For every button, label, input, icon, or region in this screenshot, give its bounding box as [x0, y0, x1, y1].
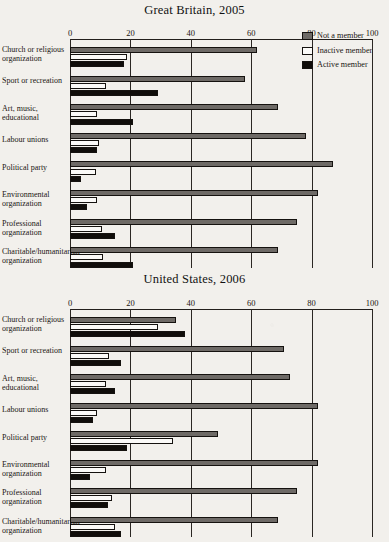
bar-not-member — [70, 161, 333, 167]
gridline — [312, 309, 313, 537]
bar-active-member — [70, 417, 93, 423]
bar-inactive-member — [70, 495, 112, 501]
legend-swatch-not_member — [302, 32, 313, 40]
legend-item-active: Active member — [302, 59, 372, 71]
bar-not-member — [70, 133, 306, 139]
bar-not-member — [70, 517, 278, 523]
gridline — [130, 39, 131, 268]
chart-title-2: United States, 2006 — [0, 269, 389, 289]
category-label: Charitable/humanitarian organization — [2, 517, 68, 535]
chart-legend: Not a memberInactive memberActive member — [302, 30, 372, 74]
bar-active-member — [70, 331, 185, 337]
gridline — [251, 309, 252, 537]
bar-inactive-member — [70, 438, 173, 444]
category-label: Art, music, educational — [2, 374, 68, 392]
gridline — [191, 309, 192, 537]
bar-active-member — [70, 233, 115, 239]
bar-inactive-member — [70, 197, 97, 203]
bar-not-member — [70, 317, 176, 323]
x-axis-tick-label: 40 — [187, 298, 196, 308]
legend-item-not_member: Not a member — [302, 30, 372, 42]
category-label: Environmental organization — [2, 190, 68, 208]
bar-not-member — [70, 403, 318, 409]
bar-inactive-member — [70, 524, 115, 530]
category-label: Political party — [2, 163, 68, 172]
bar-inactive-member — [70, 54, 127, 60]
legend-swatch-inactive — [302, 47, 313, 55]
category-label: Labour unions — [2, 135, 68, 144]
gridline — [372, 309, 373, 537]
category-label: Labour unions — [2, 405, 68, 414]
bar-not-member — [70, 190, 318, 196]
bar-not-member — [70, 488, 297, 494]
gridline — [130, 309, 131, 537]
category-label: Environmental organization — [2, 460, 68, 478]
bar-not-member — [70, 47, 257, 53]
category-label: Professional organization — [2, 219, 68, 237]
bar-inactive-member — [70, 83, 106, 89]
x-axis-tick-label: 60 — [247, 298, 256, 308]
chart-panel-united-states: United States, 2006 020406080100Church o… — [0, 269, 389, 537]
bar-active-member — [70, 61, 124, 67]
bar-inactive-member — [70, 254, 103, 260]
chart-panel-great-britain: Great Britain, 2005 020406080100Church o… — [0, 0, 389, 269]
bar-not-member — [70, 346, 284, 352]
bar-active-member — [70, 474, 90, 480]
category-label: Church or religious organization — [2, 315, 68, 333]
x-axis-tick-label: 80 — [307, 298, 316, 308]
gridline — [191, 39, 192, 268]
legend-label-not_member: Not a member — [317, 30, 364, 42]
gridline — [251, 39, 252, 268]
bar-not-member — [70, 247, 278, 253]
bar-active-member — [70, 147, 97, 153]
bar-active-member — [70, 204, 87, 210]
bar-not-member — [70, 219, 297, 225]
category-label: Church or religious organization — [2, 45, 68, 63]
legend-item-inactive: Inactive member — [302, 45, 372, 57]
x-axis-tick-label: 0 — [68, 28, 72, 38]
bar-active-member — [70, 360, 121, 366]
bar-inactive-member — [70, 467, 106, 473]
category-label: Charitable/humanitarian organization — [2, 247, 68, 265]
bar-not-member — [70, 76, 245, 82]
bar-not-member — [70, 104, 278, 110]
chart-title-1: Great Britain, 2005 — [0, 0, 389, 20]
bar-inactive-member — [70, 140, 99, 146]
bar-inactive-member — [70, 353, 109, 359]
x-axis-tick-label: 60 — [247, 28, 256, 38]
bar-active-member — [70, 388, 115, 394]
bar-inactive-member — [70, 381, 106, 387]
x-axis-line — [70, 309, 372, 310]
legend-label-active: Active member — [317, 59, 368, 71]
x-axis-tick-label: 40 — [187, 28, 196, 38]
bar-active-member — [70, 262, 133, 268]
x-axis-tick-label: 20 — [126, 28, 135, 38]
bar-not-member — [70, 431, 218, 437]
x-axis-tick-label: 0 — [68, 298, 72, 308]
bar-inactive-member — [70, 169, 96, 175]
bar-inactive-member — [70, 410, 97, 416]
bar-not-member — [70, 374, 290, 380]
bar-not-member — [70, 460, 318, 466]
category-label: Professional organization — [2, 488, 68, 506]
bar-active-member — [70, 90, 158, 96]
category-label: Art, music, educational — [2, 104, 68, 122]
bar-active-member — [70, 531, 121, 537]
plot-area-2: 020406080100Church or religious organiza… — [0, 289, 389, 537]
bar-active-member — [70, 445, 127, 451]
legend-label-inactive: Inactive member — [317, 45, 372, 57]
bar-active-member — [70, 502, 108, 508]
bar-inactive-member — [70, 226, 102, 232]
legend-swatch-active — [302, 61, 313, 69]
x-axis-tick-label: 20 — [126, 298, 135, 308]
bar-active-member — [70, 119, 133, 125]
bar-active-member — [70, 176, 81, 182]
bar-inactive-member — [70, 324, 158, 330]
category-label: Sport or recreation — [2, 346, 68, 355]
category-label: Political party — [2, 433, 68, 442]
bar-inactive-member — [70, 111, 97, 117]
category-label: Sport or recreation — [2, 76, 68, 85]
x-axis-tick-label: 100 — [366, 298, 379, 308]
